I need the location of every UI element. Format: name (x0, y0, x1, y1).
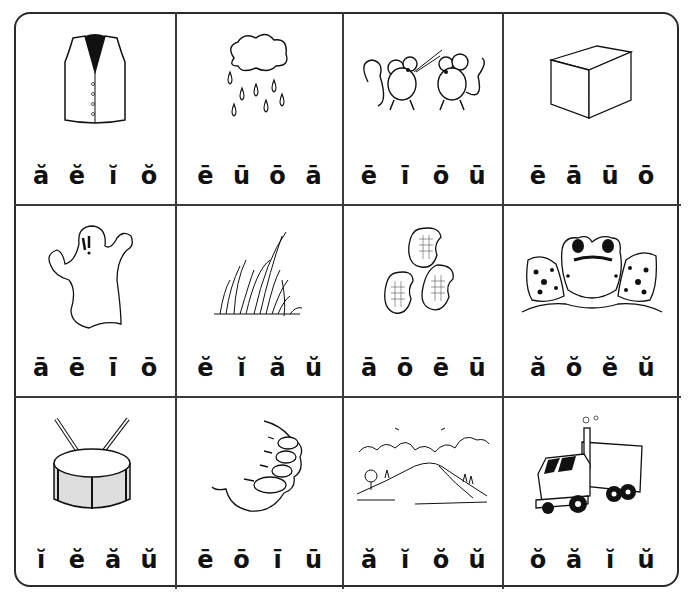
vowel-choice[interactable]: ā (296, 162, 332, 190)
vowel-choice[interactable]: ĭ (23, 546, 59, 574)
vowel-choices: ĕ ĭ ă ŭ (176, 354, 343, 382)
drum-icon (14, 407, 176, 527)
ghost-icon (14, 215, 176, 335)
vowel-choice[interactable]: ŭ (131, 546, 167, 574)
vowel-choice[interactable]: ū (459, 162, 495, 190)
vowel-choice[interactable]: ō (423, 162, 459, 190)
vowel-choice[interactable]: ă (351, 546, 387, 574)
cell-hill: ă ĭ ŏ ŭ (343, 397, 503, 589)
truck-icon (503, 407, 681, 527)
vowel-choice[interactable]: ŭ (628, 546, 664, 574)
cell-drum: ĭ ĕ ă ŭ (14, 397, 176, 589)
vowel-choices: ē ī ō ū (343, 162, 503, 190)
vowel-choice[interactable]: ă (520, 354, 556, 382)
vowel-choices: ē ā ū ō (503, 162, 681, 190)
foot-toes-icon (176, 407, 343, 527)
cell-grass: ĕ ĭ ă ŭ (176, 205, 343, 397)
vowel-choice[interactable]: ă (556, 546, 592, 574)
vowel-choice[interactable]: ă (95, 546, 131, 574)
grass-icon (176, 215, 343, 335)
vowel-choice[interactable]: ĭ (95, 162, 131, 190)
vowel-choice[interactable]: ē (351, 162, 387, 190)
vowel-choice[interactable]: ū (592, 162, 628, 190)
vowel-choice[interactable]: ă (23, 162, 59, 190)
vowel-choice[interactable]: ī (387, 162, 423, 190)
beans-icon (343, 215, 503, 335)
vowel-choice[interactable]: ā (556, 162, 592, 190)
vowel-choice[interactable]: ĭ (592, 546, 628, 574)
vowel-choice[interactable]: ĭ (387, 546, 423, 574)
vowel-choice[interactable]: ŭ (459, 546, 495, 574)
vowel-choice[interactable]: ā (351, 354, 387, 382)
cell-toe: ē ō ī ū (176, 397, 343, 589)
vowel-choice[interactable]: ē (520, 162, 556, 190)
vowel-choices: ē ū ō ā (176, 162, 343, 190)
vowel-choice[interactable]: ŭ (628, 354, 664, 382)
vowel-choice[interactable]: ē (59, 354, 95, 382)
cell-vest: ă ĕ ĭ ŏ (14, 12, 176, 205)
vowel-choice[interactable]: ĕ (59, 546, 95, 574)
vowel-choice[interactable]: ō (628, 162, 664, 190)
vowel-choices: ă ĕ ĭ ŏ (14, 162, 176, 190)
vowel-choice[interactable]: ĭ (224, 354, 260, 382)
cell-truck: ŏ ă ĭ ŭ (503, 397, 681, 589)
vowel-choices: ă ĭ ŏ ŭ (343, 546, 503, 574)
vowel-choice[interactable]: ū (296, 546, 332, 574)
vowel-choice[interactable]: ō (224, 546, 260, 574)
mice-icon (343, 22, 503, 142)
vest-icon (14, 22, 176, 142)
vowel-choices: ŏ ă ĭ ŭ (503, 546, 681, 574)
rain-cloud-icon (176, 22, 343, 142)
cube-icon (503, 22, 681, 142)
vowel-choice[interactable]: ū (224, 162, 260, 190)
vowel-choice[interactable]: ē (188, 546, 224, 574)
vowel-choices: ā ō ē ū (343, 354, 503, 382)
vowel-choice[interactable]: ā (23, 354, 59, 382)
vowel-choices: ā ē ī ō (14, 354, 176, 382)
vowel-choice[interactable]: ŏ (131, 162, 167, 190)
vowel-choice[interactable]: ū (459, 354, 495, 382)
vowel-choice[interactable]: ē (188, 162, 224, 190)
vowel-choice[interactable]: ă (260, 354, 296, 382)
cell-cube: ē ā ū ō (503, 12, 681, 205)
vowel-choice[interactable]: ō (260, 162, 296, 190)
vowel-choice[interactable]: ĕ (59, 162, 95, 190)
vowel-choice[interactable]: ŏ (556, 354, 592, 382)
cell-mice: ē ī ō ū (343, 12, 503, 205)
cell-ghost: ā ē ī ō (14, 205, 176, 397)
vowel-choices: ē ō ī ū (176, 546, 343, 574)
vowel-choice[interactable]: ŏ (423, 546, 459, 574)
vowel-choices: ĭ ĕ ă ŭ (14, 546, 176, 574)
cell-rain: ē ū ō ā (176, 12, 343, 205)
vowel-choice[interactable]: ŏ (520, 546, 556, 574)
hill-landscape-icon (343, 407, 503, 527)
cell-frog: ă ŏ ĕ ŭ (503, 205, 681, 397)
vowel-choice[interactable]: ō (131, 354, 167, 382)
vowel-choice[interactable]: ō (387, 354, 423, 382)
cell-beans: ā ō ē ū (343, 205, 503, 397)
vowel-choice[interactable]: ē (423, 354, 459, 382)
vowel-choice[interactable]: ī (95, 354, 131, 382)
vowel-choice[interactable]: ŭ (296, 354, 332, 382)
vowel-choice[interactable]: ĕ (188, 354, 224, 382)
frog-icon (503, 215, 681, 335)
vowel-choices: ă ŏ ĕ ŭ (503, 354, 681, 382)
vowel-choice[interactable]: ĕ (592, 354, 628, 382)
vowel-choice[interactable]: ī (260, 546, 296, 574)
